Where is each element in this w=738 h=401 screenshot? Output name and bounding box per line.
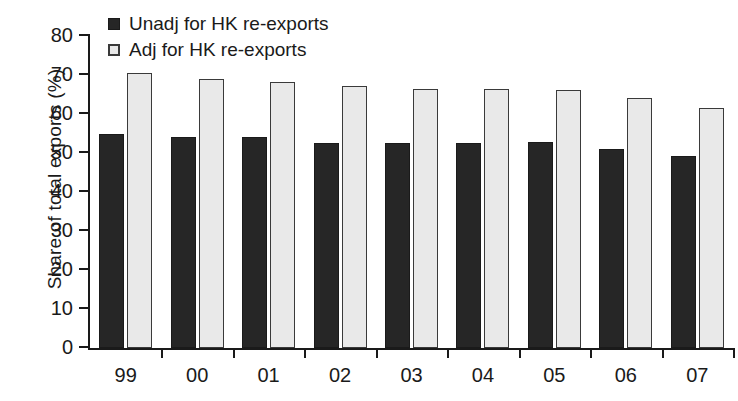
y-axis-tick-label: 50 (51, 141, 73, 164)
plot-area: 01020304050607080990001020304050607 (88, 36, 733, 350)
bar-unadj-02 (314, 143, 339, 348)
chart-root: Share of total exports (%) Unadj for HK … (0, 0, 738, 401)
bar-adj-00 (199, 79, 224, 348)
y-axis-tick-label: 0 (62, 336, 73, 359)
x-axis-label-05: 05 (543, 364, 565, 387)
x-axis-label-99: 99 (115, 364, 137, 387)
y-axis-tick: 50 (79, 151, 90, 153)
y-axis-tick: 40 (79, 190, 90, 192)
y-axis-tick: 60 (79, 112, 90, 114)
y-axis-tick-label: 40 (51, 180, 73, 203)
y-axis-tick: 30 (79, 229, 90, 231)
bar-unadj-05 (528, 142, 553, 348)
legend-item-unadj: Unadj for HK re-exports (108, 12, 329, 36)
y-axis-tick-label: 30 (51, 219, 73, 242)
x-axis-label-01: 01 (257, 364, 279, 387)
bar-unadj-07 (671, 156, 696, 348)
y-axis-tick-label: 80 (51, 24, 73, 47)
x-axis-tick (519, 348, 521, 358)
y-axis-tick-label: 10 (51, 297, 73, 320)
bar-adj-06 (627, 98, 652, 348)
bar-adj-99 (127, 73, 152, 348)
bar-unadj-01 (242, 137, 267, 348)
y-axis-tick-label: 70 (51, 63, 73, 86)
y-axis-tick: 20 (79, 268, 90, 270)
y-axis-tick-label: 20 (51, 258, 73, 281)
x-axis-tick (161, 348, 163, 358)
bar-unadj-06 (599, 149, 624, 348)
x-axis-tick (376, 348, 378, 358)
bar-unadj-00 (171, 137, 196, 348)
x-axis-tick (233, 348, 235, 358)
x-axis-label-07: 07 (686, 364, 708, 387)
y-axis-tick: 10 (79, 307, 90, 309)
legend-swatch-filled-square-icon (108, 18, 120, 30)
bar-unadj-03 (385, 143, 410, 348)
y-axis-tick: 70 (79, 73, 90, 75)
x-axis-tick (304, 348, 306, 358)
bar-unadj-04 (456, 143, 481, 348)
y-axis-tick: 0 (79, 346, 90, 348)
legend-label-adj: Adj for HK re-exports (129, 39, 306, 61)
x-axis-tick (733, 348, 735, 358)
chart-legend: Unadj for HK re-exports Adj for HK re-ex… (108, 12, 329, 64)
bar-adj-01 (270, 82, 295, 348)
y-axis-tick: 80 (79, 34, 90, 36)
bar-adj-05 (556, 90, 581, 348)
legend-swatch-open-square-icon (108, 44, 120, 56)
x-axis-tick (590, 348, 592, 358)
x-axis-label-04: 04 (472, 364, 494, 387)
x-axis-tick (662, 348, 664, 358)
x-axis-tick (447, 348, 449, 358)
x-axis-label-03: 03 (400, 364, 422, 387)
x-axis-label-00: 00 (186, 364, 208, 387)
legend-item-adj: Adj for HK re-exports (108, 38, 329, 62)
bar-adj-03 (413, 89, 438, 348)
bar-adj-02 (342, 86, 367, 348)
y-axis-tick-label: 60 (51, 102, 73, 125)
x-axis-label-02: 02 (329, 364, 351, 387)
bar-unadj-99 (99, 134, 124, 349)
bar-adj-04 (484, 89, 509, 348)
legend-label-unadj: Unadj for HK re-exports (129, 13, 329, 35)
bar-adj-07 (699, 108, 724, 348)
x-axis-label-06: 06 (615, 364, 637, 387)
